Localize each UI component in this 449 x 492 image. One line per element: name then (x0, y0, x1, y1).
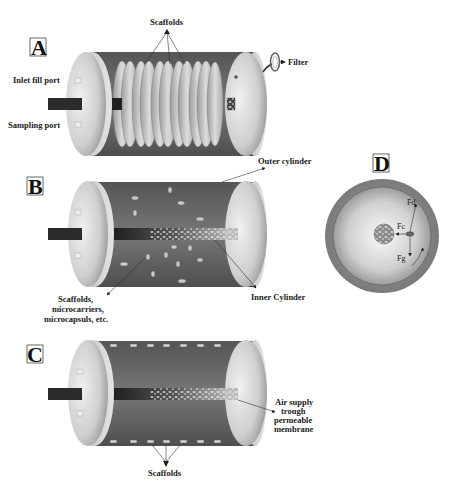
label-carriers-line1: Scaffolds, (58, 294, 93, 304)
label-outer-cylinder: Outer cylinder (258, 156, 312, 166)
force-fc-label: Fc (397, 222, 405, 231)
label-sampling-port: Sampling port (8, 120, 60, 130)
force-fd-label: Fd (407, 198, 415, 207)
inner-cylinder-texture (150, 228, 238, 240)
port-icon (77, 411, 83, 416)
d-particle (406, 232, 414, 236)
vent-hole-icon (234, 75, 238, 79)
force-fg-label: Fg (397, 254, 405, 263)
label-scaffolds-c: Scaffolds (148, 468, 182, 478)
panel-b: B (27, 156, 312, 324)
bioreactor-diagram: A (0, 0, 449, 492)
sampling-port-icon (75, 122, 81, 127)
air-membrane-texture (150, 388, 238, 400)
shaft-c (48, 388, 82, 400)
d-core-texture (374, 224, 394, 244)
label-air-line4: membrane (274, 424, 313, 434)
inner-shaft-a (112, 98, 122, 110)
inner-cylinder-end-texture (225, 228, 238, 240)
label-inner-cylinder: Inner Cylinder (251, 292, 306, 302)
label-filter: Filter (288, 57, 309, 67)
panel-b-letter: B (28, 174, 43, 199)
panel-d-letter: D (374, 151, 390, 176)
panel-c-letter: C (27, 342, 43, 367)
membrane-end-texture (225, 388, 238, 400)
cell-block-texture (227, 98, 235, 110)
label-inlet-fill-port: Inlet fill port (13, 75, 60, 85)
port-icon (77, 369, 83, 374)
label-carriers-line3: microcapsuls, etc. (44, 314, 108, 324)
port-icon (75, 253, 81, 258)
panel-a: A (8, 17, 309, 156)
port-icon (75, 210, 81, 215)
label-carriers-line2: microcarriers, (52, 304, 104, 314)
scaffold-disks (113, 61, 223, 147)
panel-a-letter: A (31, 35, 47, 60)
shaft-b (48, 228, 82, 240)
panel-d: D Fd Fc Fg (325, 151, 439, 293)
label-scaffolds-a: Scaffolds (150, 17, 184, 27)
shaft-a (48, 98, 82, 110)
panel-c: C Air supply (27, 340, 314, 478)
inlet-port-icon (75, 78, 81, 83)
